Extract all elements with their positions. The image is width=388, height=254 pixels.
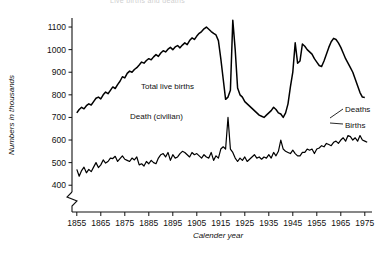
y-tick-label: 1100 [48,22,67,32]
leader-line [330,123,343,124]
series-lines [77,20,367,176]
x-tick-label: 1965 [331,218,350,228]
y-tick-label: 700 [52,112,66,122]
annotation-total-live-births: Total live births [141,82,194,91]
x-tick-label: 1975 [355,218,374,228]
y-tick-label: 800 [52,90,66,100]
x-axis: 1855186518751885189519051915192519351945… [67,212,374,228]
x-tick-label: 1885 [139,218,158,228]
y-tick-label: 400 [52,180,66,190]
x-tick-label: 1905 [187,218,206,228]
x-tick-label: 1915 [211,218,230,228]
annotation-death-civilian: Death (civilian) [130,112,183,121]
x-tick-label: 1935 [259,218,278,228]
x-tick-label: 1875 [115,218,134,228]
annotation-deaths-right: Deaths [345,105,370,114]
annotation-births-right: Births [345,121,365,130]
y-axis: 40050060070080090010001100 [47,18,77,212]
x-tick-label: 1865 [91,218,110,228]
births-deaths-line-chart: 40050060070080090010001100 1855186518751… [0,0,388,254]
y-tick-label: 1000 [47,45,66,55]
y-tick-label: 600 [52,135,66,145]
y-tick-label: 500 [52,158,66,168]
x-tick-label: 1925 [235,218,254,228]
x-tick-label: 1895 [163,218,182,228]
x-tick-label: 1955 [307,218,326,228]
series-total-live-births [77,20,365,117]
x-axis-title: Calender year [193,231,244,240]
x-tick-label: 1855 [67,218,86,228]
y-axis-title: Numbers in thousands [7,75,16,155]
series-death-civilian [77,117,367,176]
y-tick-label: 900 [52,67,66,77]
leader-line [330,109,343,118]
x-tick-label: 1945 [283,218,302,228]
